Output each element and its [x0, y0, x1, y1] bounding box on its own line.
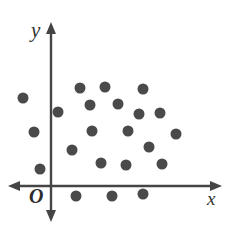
data-point	[171, 129, 182, 140]
data-point	[138, 84, 149, 95]
data-points-group	[18, 82, 182, 202]
data-point	[71, 191, 82, 202]
data-point	[18, 93, 29, 104]
data-point	[87, 126, 98, 137]
data-point	[53, 107, 64, 118]
data-point	[134, 109, 145, 120]
y-axis-arrow-down-icon	[46, 210, 56, 222]
data-point	[107, 191, 118, 202]
data-point	[75, 83, 86, 94]
data-point	[144, 142, 155, 153]
y-axis-label: y	[31, 20, 40, 41]
data-point	[157, 159, 168, 170]
x-axis-label: x	[207, 189, 215, 208]
data-point	[29, 127, 40, 138]
data-point	[121, 160, 132, 171]
data-point	[113, 99, 124, 110]
data-point	[155, 108, 166, 119]
data-point	[67, 145, 78, 156]
x-axis-arrow-left-icon	[8, 181, 20, 191]
data-point	[96, 158, 107, 169]
data-point	[35, 164, 46, 175]
data-point	[138, 189, 149, 200]
scatter-plot-figure: y x O	[0, 0, 235, 229]
data-point	[100, 82, 111, 93]
y-axis-arrow-up-icon	[46, 22, 56, 34]
data-point	[123, 126, 134, 137]
origin-label: O	[29, 186, 43, 206]
data-point	[85, 100, 96, 111]
